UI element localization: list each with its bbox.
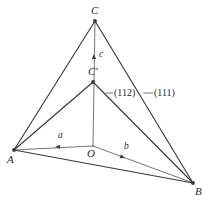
vertex-dots (12, 19, 195, 185)
vector-label-c: c (99, 50, 103, 60)
edge-A-O (14, 146, 93, 150)
vertex-label-O: O (87, 148, 95, 159)
vertex-dot-C (93, 19, 97, 23)
vertex-label-C: C (91, 5, 98, 16)
arrowhead-vector-c (92, 54, 96, 59)
edge-O-B (93, 146, 193, 183)
vertex-label-Cprime: C' (88, 66, 98, 77)
tetrahedron-edges (14, 21, 193, 183)
vertex-dot-Cprime (91, 80, 95, 84)
figure-canvas (0, 0, 209, 204)
plane-label-111: (111) (154, 88, 175, 98)
edge-A-B (14, 150, 193, 183)
crystal-plane-figure: C C' A B O a b c (112) (111) (0, 0, 209, 204)
arrowhead-vector-b (120, 154, 125, 158)
edge-A-Cprime (14, 82, 93, 150)
vector-label-b: b (124, 142, 129, 152)
vector-label-a: a (58, 131, 63, 141)
edge-A-C (14, 21, 95, 150)
edge-C-B (95, 21, 193, 183)
plane-label-112: (112) (114, 88, 135, 98)
vertex-label-A: A (7, 154, 14, 165)
vertex-dot-A (12, 148, 16, 152)
vertex-label-B: B (195, 186, 202, 197)
